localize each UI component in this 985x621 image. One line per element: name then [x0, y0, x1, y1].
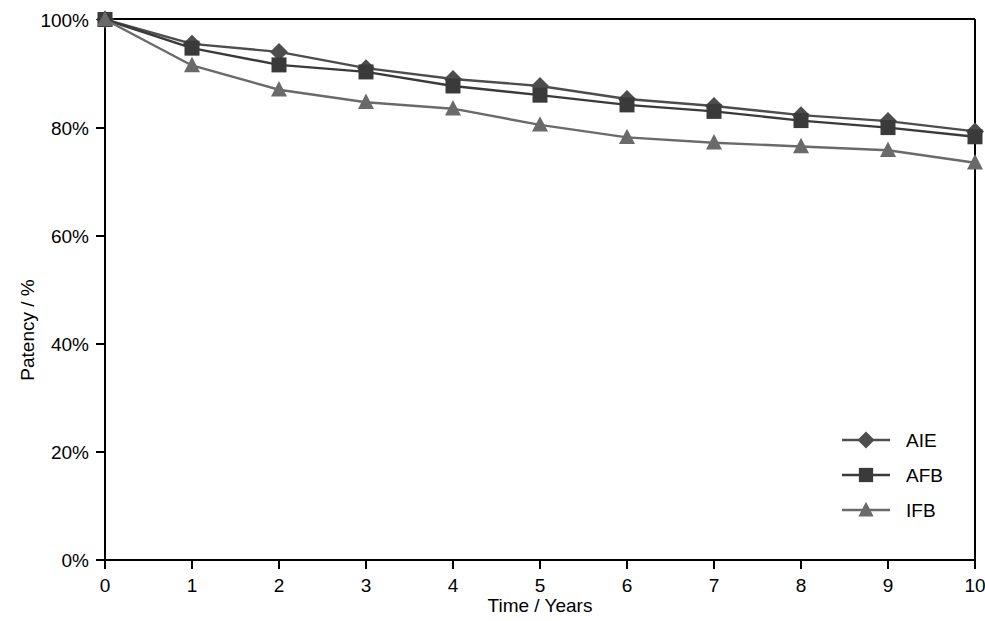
x-tick-label: 8: [796, 575, 807, 596]
marker-square: [620, 97, 635, 112]
x-tick-label: 0: [100, 575, 111, 596]
marker-diamond: [857, 431, 874, 448]
marker-square: [968, 129, 983, 144]
legend-item-ifb[interactable]: IFB: [842, 500, 936, 521]
legend-item-aie[interactable]: AIE: [842, 430, 937, 451]
marker-square: [272, 57, 287, 72]
marker-square: [533, 88, 548, 103]
legend-item-afb[interactable]: AFB: [842, 465, 943, 486]
y-axis-title: Patency / %: [17, 279, 38, 380]
legend-label-afb: AFB: [906, 465, 943, 486]
legend-label-aie: AIE: [906, 430, 937, 451]
y-tick-label: 40%: [51, 334, 89, 355]
data-series-layer: [96, 11, 984, 170]
marker-square: [794, 113, 809, 128]
patency-line-chart-figure: 0%20%40%60%80%100% 012345678910 AIEAFBIF…: [0, 0, 985, 621]
x-tick-label: 7: [709, 575, 720, 596]
chart-legend: AIEAFBIFB: [842, 430, 943, 521]
x-tick-label: 1: [187, 575, 198, 596]
marker-square: [446, 78, 461, 93]
marker-square: [185, 41, 200, 56]
marker-square: [359, 64, 374, 79]
x-tick-label: 5: [535, 575, 546, 596]
x-tick-label: 6: [622, 575, 633, 596]
x-tick-label: 4: [448, 575, 459, 596]
x-axis-title: Time / Years: [488, 595, 593, 616]
marker-triangle: [184, 57, 200, 72]
y-axis-ticks: 0%20%40%60%80%100%: [40, 10, 105, 572]
marker-square: [707, 104, 722, 119]
marker-square: [859, 468, 873, 482]
y-tick-label: 0%: [62, 550, 90, 571]
y-tick-label: 60%: [51, 226, 89, 247]
x-tick-label: 10: [964, 575, 985, 596]
y-tick-label: 20%: [51, 442, 89, 463]
chart-canvas: 0%20%40%60%80%100% 012345678910 AIEAFBIF…: [0, 0, 985, 621]
x-tick-label: 2: [274, 575, 285, 596]
x-tick-label: 3: [361, 575, 372, 596]
legend-label-ifb: IFB: [906, 500, 936, 521]
y-tick-label: 100%: [40, 10, 89, 31]
series-line-aie: [105, 20, 975, 132]
x-axis-ticks: 012345678910: [100, 560, 985, 596]
marker-square: [881, 120, 896, 135]
y-tick-label: 80%: [51, 118, 89, 139]
x-tick-label: 9: [883, 575, 894, 596]
